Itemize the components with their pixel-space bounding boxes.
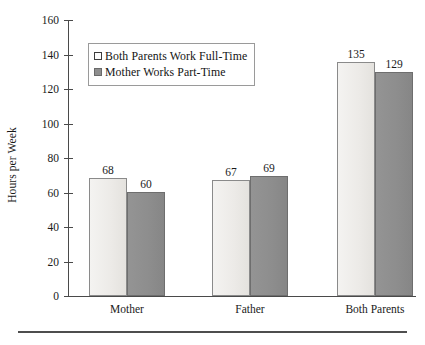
bar-value-label: 60 [140,178,152,190]
bar-value-label: 67 [225,166,237,178]
legend-entry-mother-part-time: Mother Works Part-Time [94,64,247,80]
x-category-label-both-parents: Both Parents [345,303,404,315]
y-tick-mark [64,227,73,228]
y-tick-label: 80 [48,152,60,164]
y-tick-label: 140 [42,49,59,61]
x-category-label-mother: Mother [110,303,144,315]
bar-both-parents-both-full-time[interactable]: 135 [337,62,375,296]
bar-value-label: 68 [102,164,114,176]
bar-father-both-full-time[interactable]: 67 [212,180,250,296]
legend-label: Both Parents Work Full-Time [105,49,247,64]
y-tick-mark [64,55,73,56]
bar-value-label: 129 [385,58,402,70]
y-tick-mark [64,20,73,21]
y-axis-title: Hours per Week [6,15,22,315]
y-tick-label: 120 [42,83,59,95]
y-tick-label: 0 [53,290,59,302]
x-axis-line [68,296,416,297]
legend-swatch-light-icon [94,52,102,60]
y-tick-label: 40 [48,221,60,233]
y-tick-mark [64,262,73,263]
chart-legend: Both Parents Work Full-Time Mother Works… [88,43,255,86]
y-tick-mark [64,296,73,297]
legend-swatch-dark-icon [94,68,102,76]
y-tick-label: 20 [48,256,60,268]
bar-chart-figure: Hours per Week 160 140 120 100 80 60 [0,0,425,345]
legend-label: Mother Works Part-Time [105,65,226,80]
y-tick-label: 60 [48,187,60,199]
y-tick-mark [64,89,73,90]
bar-both-parents-part-time[interactable]: 129 [375,72,413,296]
bar-value-label: 135 [347,48,364,60]
bar-mother-part-time[interactable]: 60 [127,192,165,296]
legend-entry-both-parents-full-time: Both Parents Work Full-Time [94,48,247,64]
bar-mother-both-full-time[interactable]: 68 [89,178,127,296]
bottom-divider [18,331,407,333]
bar-father-part-time[interactable]: 69 [250,176,288,296]
y-tick-mark [64,124,73,125]
y-tick-mark [64,193,73,194]
x-category-label-father: Father [235,303,264,315]
y-tick-mark [64,158,73,159]
y-tick-label: 160 [42,14,59,26]
y-tick-label: 100 [42,118,59,130]
bar-value-label: 69 [263,162,275,174]
